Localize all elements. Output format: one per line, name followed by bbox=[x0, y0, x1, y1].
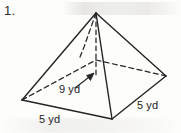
hidden-edge-back-to-right bbox=[96, 60, 166, 76]
base-front-edge-label: 5 yd bbox=[39, 113, 60, 125]
edge-apex-to-front bbox=[96, 13, 112, 119]
hidden-edge-apex-to-back bbox=[80, 13, 96, 57]
worksheet-problem-figure: 1. 9 yd 5 yd 5 yd bbox=[0, 0, 181, 133]
height-label: 9 yd bbox=[59, 83, 80, 95]
edge-apex-to-right bbox=[96, 13, 166, 76]
base-edge-front-right bbox=[112, 76, 166, 119]
height-leader-arrowhead bbox=[87, 73, 95, 81]
base-right-edge-label: 5 yd bbox=[137, 99, 158, 111]
base-edge-front-left bbox=[22, 100, 112, 119]
square-pyramid-figure bbox=[0, 0, 181, 133]
